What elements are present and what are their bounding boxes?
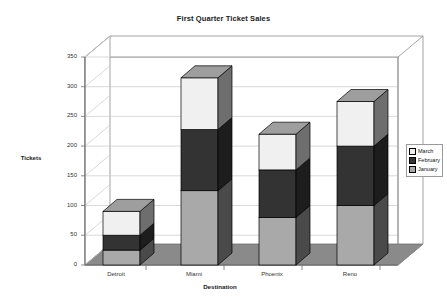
bar-segment-reno-february	[337, 146, 374, 205]
x-tick-label-reno: Reno	[320, 271, 380, 277]
bar-side-miami-january	[218, 179, 232, 265]
legend-swatch-january-icon	[409, 166, 416, 173]
bar-side-reno-february	[374, 134, 388, 205]
bar-segment-miami-january	[181, 191, 218, 265]
legend-item-march[interactable]: March	[409, 147, 440, 156]
legend-label-march: March	[418, 147, 433, 156]
bar-group-miami	[181, 66, 232, 265]
bar-group-phoenix	[259, 122, 310, 265]
bar-segment-miami-march	[181, 78, 218, 130]
y-tick-label-100: 100	[55, 202, 77, 208]
plot-top-face	[85, 36, 423, 57]
x-tick-marks	[146, 265, 380, 270]
y-axis-title: Tickets	[12, 155, 50, 161]
legend-swatch-march-icon	[409, 148, 416, 155]
bar-segment-phoenix-january	[259, 217, 296, 265]
chart-legend[interactable]: March February January	[406, 144, 443, 177]
bar-segment-miami-february	[181, 130, 218, 191]
bar-segment-phoenix-february	[259, 170, 296, 218]
bar-segment-reno-january	[337, 206, 374, 266]
bar-group-reno	[337, 90, 388, 266]
legend-item-february[interactable]: February	[409, 156, 440, 165]
y-tick-label-250: 250	[55, 112, 77, 118]
y-tick-label-50: 50	[55, 231, 77, 237]
x-tick-label-detroit: Detroit	[86, 271, 146, 277]
y-tick-label-350: 350	[55, 53, 77, 59]
chart-container: First Quarter Ticket Sales	[0, 0, 447, 301]
bar-segment-detroit-january	[103, 250, 140, 265]
legend-item-january[interactable]: January	[409, 165, 440, 174]
y-tick-label-200: 200	[55, 142, 77, 148]
x-axis-title: Destination	[160, 283, 280, 290]
y-tick-marks	[81, 57, 85, 265]
legend-label-february: February	[418, 156, 440, 165]
bar-segment-reno-march	[337, 102, 374, 147]
bar-segment-detroit-february	[103, 235, 140, 250]
y-tick-label-150: 150	[55, 172, 77, 178]
y-tick-label-300: 300	[55, 83, 77, 89]
bar-side-reno-january	[374, 194, 388, 266]
legend-swatch-february-icon	[409, 157, 416, 164]
x-tick-label-phoenix: Phoenix	[242, 271, 302, 277]
bar-segment-phoenix-march	[259, 134, 296, 170]
y-tick-label-0: 0	[55, 261, 77, 267]
bar-segment-detroit-march	[103, 211, 140, 235]
chart-plot-area	[0, 0, 447, 301]
legend-label-january: January	[418, 165, 438, 174]
bar-side-miami-february	[218, 118, 232, 191]
bar-group-detroit	[103, 199, 154, 265]
x-tick-label-miami: Miami	[164, 271, 224, 277]
